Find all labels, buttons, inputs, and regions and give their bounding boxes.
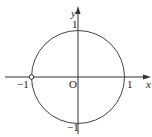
y-axis-arrow-icon bbox=[76, 6, 81, 14]
origin-label: O bbox=[69, 78, 77, 90]
open-point-neg1 bbox=[29, 75, 34, 80]
unit-circle-diagram: y 1 x 1 −1 O −1 bbox=[0, 0, 152, 137]
y-tick-1: 1 bbox=[72, 18, 78, 30]
x-axis-label: x bbox=[145, 78, 151, 90]
x-tick-neg1: −1 bbox=[17, 78, 29, 90]
x-tick-1: 1 bbox=[127, 78, 133, 90]
y-tick-neg1: −1 bbox=[67, 121, 79, 133]
